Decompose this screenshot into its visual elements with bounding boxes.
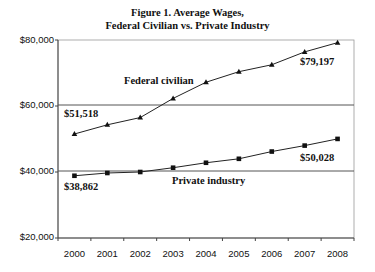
- private-point-2005: [237, 157, 242, 162]
- x-tick-2000: 2000: [59, 248, 89, 259]
- x-tick-2003: 2003: [158, 248, 188, 259]
- federal-start-value: $51,518: [64, 108, 98, 119]
- private-point-2000: [72, 173, 77, 178]
- private-point-2004: [204, 160, 209, 165]
- private-point-2006: [269, 149, 274, 154]
- federal-point-2002: [137, 115, 143, 120]
- plot-frame: [58, 40, 354, 238]
- federal-civilian-line: [74, 43, 337, 134]
- private-start-value: $38,862: [64, 181, 98, 192]
- axis-ticks: [55, 40, 354, 241]
- private-point-2008: [335, 137, 340, 142]
- private-industry-label: Private industry: [172, 175, 245, 186]
- private-point-2003: [171, 165, 176, 170]
- private-end-value: $50,028: [300, 152, 334, 163]
- private-point-2007: [302, 143, 307, 148]
- private-industry-line: [74, 139, 337, 176]
- x-tick-2006: 2006: [257, 248, 287, 259]
- plot-area: [0, 0, 375, 272]
- x-tick-2005: 2005: [224, 248, 254, 259]
- x-tick-2008: 2008: [323, 248, 353, 259]
- x-tick-2007: 2007: [290, 248, 320, 259]
- x-tick-2002: 2002: [125, 248, 155, 259]
- x-tick-2001: 2001: [92, 248, 122, 259]
- federal-end-value: $79,197: [300, 56, 334, 67]
- private-point-2001: [105, 171, 110, 176]
- x-tick-2004: 2004: [191, 248, 221, 259]
- federal-civilian-label: Federal civilian: [124, 75, 194, 86]
- private-point-2002: [138, 170, 143, 175]
